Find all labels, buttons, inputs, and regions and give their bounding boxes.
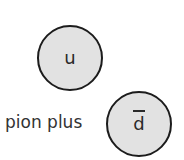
up-quark-label: u: [64, 49, 75, 67]
anti-down-quark-circle: d: [106, 91, 172, 157]
anti-down-quark-letter: d: [133, 113, 144, 134]
particle-caption: pion plus: [5, 112, 82, 132]
anti-down-quark-label: d: [133, 115, 144, 133]
up-quark-circle: u: [37, 25, 103, 91]
antiparticle-bar: [133, 110, 144, 112]
